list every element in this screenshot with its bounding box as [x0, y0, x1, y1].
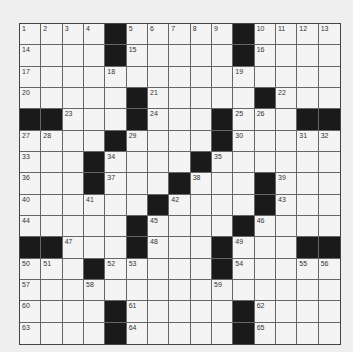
answer-cell[interactable]: [41, 195, 62, 216]
answer-cell[interactable]: [191, 280, 212, 301]
answer-cell[interactable]: [41, 173, 62, 194]
answer-cell[interactable]: 61: [127, 301, 148, 322]
answer-cell[interactable]: [41, 152, 62, 173]
answer-cell[interactable]: [105, 237, 126, 258]
answer-cell[interactable]: [63, 173, 84, 194]
answer-cell[interactable]: [41, 280, 62, 301]
answer-cell[interactable]: 30: [233, 131, 254, 152]
answer-cell[interactable]: [41, 45, 62, 66]
answer-cell[interactable]: [297, 280, 318, 301]
answer-cell[interactable]: [233, 152, 254, 173]
answer-cell[interactable]: [319, 152, 340, 173]
answer-cell[interactable]: [148, 67, 169, 88]
answer-cell[interactable]: 34: [105, 152, 126, 173]
answer-cell[interactable]: [191, 259, 212, 280]
answer-cell[interactable]: [191, 301, 212, 322]
answer-cell[interactable]: [41, 323, 62, 344]
answer-cell[interactable]: [191, 88, 212, 109]
answer-cell[interactable]: 28: [41, 131, 62, 152]
answer-cell[interactable]: 7: [169, 24, 190, 45]
answer-cell[interactable]: [127, 152, 148, 173]
answer-cell[interactable]: [276, 45, 297, 66]
answer-cell[interactable]: 6: [148, 24, 169, 45]
answer-cell[interactable]: 18: [105, 67, 126, 88]
answer-cell[interactable]: [84, 67, 105, 88]
answer-cell[interactable]: [319, 88, 340, 109]
answer-cell[interactable]: 39: [276, 173, 297, 194]
answer-cell[interactable]: 22: [276, 88, 297, 109]
answer-cell[interactable]: [148, 152, 169, 173]
answer-cell[interactable]: [63, 45, 84, 66]
answer-cell[interactable]: 33: [20, 152, 41, 173]
answer-cell[interactable]: [297, 216, 318, 237]
answer-cell[interactable]: [169, 152, 190, 173]
answer-cell[interactable]: [169, 109, 190, 130]
answer-cell[interactable]: [276, 323, 297, 344]
answer-cell[interactable]: 37: [105, 173, 126, 194]
answer-cell[interactable]: [255, 67, 276, 88]
answer-cell[interactable]: 51: [41, 259, 62, 280]
answer-cell[interactable]: 60: [20, 301, 41, 322]
answer-cell[interactable]: [191, 237, 212, 258]
answer-cell[interactable]: 41: [84, 195, 105, 216]
answer-cell[interactable]: 9: [212, 24, 233, 45]
answer-cell[interactable]: [169, 88, 190, 109]
answer-cell[interactable]: 47: [63, 237, 84, 258]
answer-cell[interactable]: [84, 88, 105, 109]
answer-cell[interactable]: [319, 323, 340, 344]
answer-cell[interactable]: [276, 131, 297, 152]
answer-cell[interactable]: 52: [105, 259, 126, 280]
answer-cell[interactable]: 15: [127, 45, 148, 66]
answer-cell[interactable]: [255, 259, 276, 280]
answer-cell[interactable]: [105, 195, 126, 216]
answer-cell[interactable]: [233, 173, 254, 194]
answer-cell[interactable]: [276, 301, 297, 322]
answer-cell[interactable]: [276, 259, 297, 280]
answer-cell[interactable]: [169, 323, 190, 344]
answer-cell[interactable]: [84, 237, 105, 258]
answer-cell[interactable]: 35: [212, 152, 233, 173]
answer-cell[interactable]: [255, 237, 276, 258]
answer-cell[interactable]: 59: [212, 280, 233, 301]
answer-cell[interactable]: [255, 152, 276, 173]
answer-cell[interactable]: 19: [233, 67, 254, 88]
answer-cell[interactable]: [276, 152, 297, 173]
answer-cell[interactable]: [41, 67, 62, 88]
answer-cell[interactable]: [191, 109, 212, 130]
answer-cell[interactable]: 54: [233, 259, 254, 280]
answer-cell[interactable]: [63, 88, 84, 109]
answer-cell[interactable]: 31: [297, 131, 318, 152]
answer-cell[interactable]: [105, 88, 126, 109]
answer-cell[interactable]: [191, 323, 212, 344]
answer-cell[interactable]: [255, 280, 276, 301]
answer-cell[interactable]: [297, 323, 318, 344]
answer-cell[interactable]: 58: [84, 280, 105, 301]
answer-cell[interactable]: [148, 131, 169, 152]
answer-cell[interactable]: 62: [255, 301, 276, 322]
answer-cell[interactable]: 46: [255, 216, 276, 237]
answer-cell[interactable]: 43: [276, 195, 297, 216]
answer-cell[interactable]: 64: [127, 323, 148, 344]
answer-cell[interactable]: 32: [319, 131, 340, 152]
answer-cell[interactable]: [63, 323, 84, 344]
answer-cell[interactable]: [84, 131, 105, 152]
answer-cell[interactable]: [63, 216, 84, 237]
answer-cell[interactable]: [276, 280, 297, 301]
answer-cell[interactable]: 3: [63, 24, 84, 45]
answer-cell[interactable]: [84, 109, 105, 130]
answer-cell[interactable]: [212, 323, 233, 344]
answer-cell[interactable]: [127, 173, 148, 194]
answer-cell[interactable]: [212, 67, 233, 88]
answer-cell[interactable]: 48: [148, 237, 169, 258]
answer-cell[interactable]: [148, 280, 169, 301]
answer-cell[interactable]: 44: [20, 216, 41, 237]
answer-cell[interactable]: [84, 323, 105, 344]
answer-cell[interactable]: 45: [148, 216, 169, 237]
answer-cell[interactable]: 8: [191, 24, 212, 45]
answer-cell[interactable]: [191, 67, 212, 88]
answer-cell[interactable]: [255, 131, 276, 152]
answer-cell[interactable]: [169, 216, 190, 237]
answer-cell[interactable]: 56: [319, 259, 340, 280]
answer-cell[interactable]: [105, 109, 126, 130]
answer-cell[interactable]: [191, 131, 212, 152]
